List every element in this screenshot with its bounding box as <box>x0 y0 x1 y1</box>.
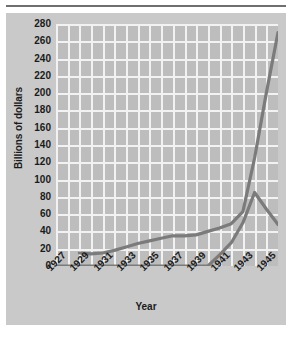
series-lines <box>56 24 278 266</box>
y-tick-label: 200 <box>34 88 51 98</box>
y-tick-label: 220 <box>34 71 51 81</box>
chart-card: Billions of dollars 02040608010012014016… <box>6 13 286 325</box>
y-tick-label: 280 <box>34 19 51 29</box>
y-tick-label: 100 <box>34 175 51 185</box>
y-tick-label: 60 <box>40 209 51 219</box>
y-tick-label: 160 <box>34 123 51 133</box>
y-tick-label: 120 <box>34 157 51 167</box>
plot-area <box>56 24 278 266</box>
y-tick-label: 40 <box>40 226 51 236</box>
y-tick-label: 180 <box>34 105 51 115</box>
y-tick-label: 80 <box>40 192 51 202</box>
y-tick-label: 20 <box>40 244 51 254</box>
y-tick-label: 240 <box>34 54 51 64</box>
chart-figure: Billions of dollars 02040608010012014016… <box>0 0 292 340</box>
x-axis-label: Year <box>6 301 286 312</box>
series-line <box>79 33 278 254</box>
top-divider <box>6 5 286 7</box>
y-tick-label: 260 <box>34 36 51 46</box>
y-axis-ticks: 020406080100120140160180200220240260280 <box>6 13 56 277</box>
y-tick-label: 140 <box>34 140 51 150</box>
